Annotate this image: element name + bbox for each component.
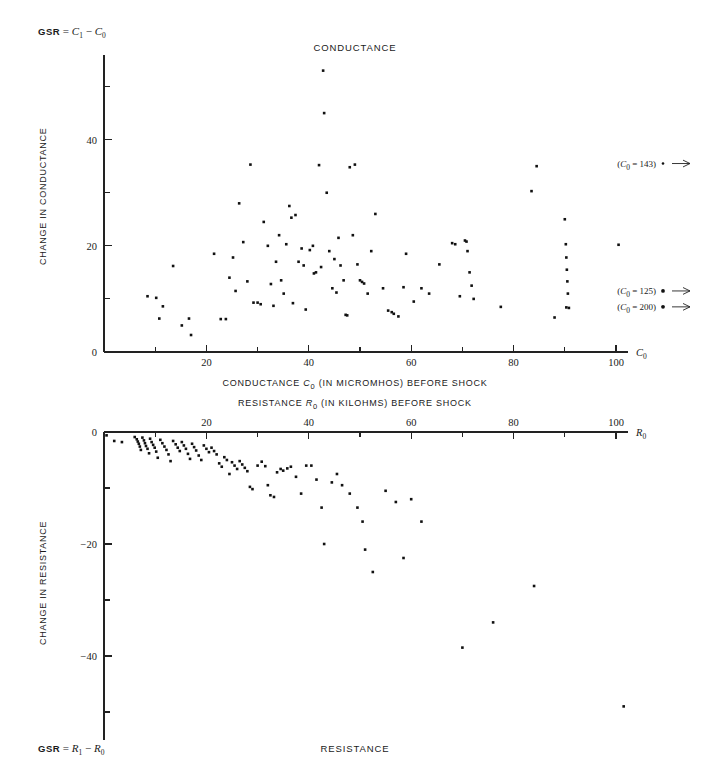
data-point — [144, 442, 147, 445]
data-point — [402, 557, 405, 560]
data-point — [158, 317, 161, 320]
data-point — [213, 450, 216, 453]
data-point — [185, 448, 188, 451]
data-point — [270, 283, 273, 286]
data-point — [472, 298, 475, 301]
data-point — [309, 249, 312, 252]
data-point — [241, 463, 244, 466]
data-point — [278, 234, 281, 237]
data-point — [492, 621, 495, 624]
data-point — [140, 449, 143, 452]
data-point — [356, 506, 359, 509]
data-point — [187, 453, 190, 456]
data-point — [361, 520, 364, 523]
conductance-annotation: (C0 = 125) — [617, 286, 656, 299]
data-point — [203, 444, 206, 447]
data-point — [356, 263, 359, 266]
conductance-x-axis-label: CONDUCTANCE C0 (IN MICROMHOS) BEFORE SHO… — [222, 378, 487, 391]
data-point — [300, 247, 303, 250]
data-point — [461, 646, 464, 649]
data-point — [244, 467, 247, 470]
resistance-x-ticklabel: 20 — [201, 417, 212, 428]
data-point — [172, 265, 175, 268]
data-point — [256, 464, 259, 467]
data-point — [273, 496, 276, 499]
data-point — [622, 705, 625, 708]
data-point — [322, 69, 325, 72]
resistance-panel-title: RESISTANCE — [320, 743, 389, 754]
data-point — [161, 442, 164, 445]
data-point — [290, 216, 293, 219]
data-point — [372, 571, 375, 574]
data-point — [165, 449, 168, 452]
data-point — [172, 440, 175, 443]
data-point — [189, 458, 192, 461]
data-point — [295, 476, 298, 479]
data-point — [105, 434, 108, 437]
resistance-x-axis-label: RESISTANCE R0 (IN KILOHMS) BEFORE SHOCK — [238, 398, 472, 411]
data-point — [325, 191, 328, 194]
data-point — [167, 453, 170, 456]
data-point — [364, 548, 367, 551]
data-point — [410, 498, 413, 501]
data-point — [156, 456, 159, 459]
data-point — [249, 163, 252, 166]
resistance-x-ticklabel: 80 — [508, 417, 519, 428]
data-point — [553, 316, 556, 319]
data-point — [195, 449, 198, 452]
data-point — [292, 302, 295, 305]
data-point — [363, 282, 366, 285]
data-point — [315, 271, 318, 274]
data-point — [617, 243, 620, 246]
figure-canvas: GSR = C1 − C0CONDUCTANCE2040608010002040… — [0, 0, 711, 778]
data-point — [428, 292, 431, 295]
data-point — [143, 439, 146, 442]
data-point — [113, 440, 116, 443]
annotation-marker — [661, 289, 665, 293]
data-point — [190, 334, 193, 337]
data-point — [213, 252, 216, 255]
data-point — [205, 448, 208, 451]
data-point — [454, 243, 457, 246]
data-point — [290, 465, 293, 468]
data-point — [141, 436, 144, 439]
data-point — [148, 452, 151, 455]
data-point — [181, 441, 184, 444]
data-point — [226, 459, 229, 462]
data-point — [155, 297, 158, 300]
data-point — [395, 501, 398, 504]
conductance-y-ticklabel: 40 — [87, 135, 98, 146]
data-point — [370, 250, 373, 253]
data-point — [465, 240, 468, 243]
data-point — [535, 165, 538, 168]
data-point — [323, 112, 326, 115]
conductance-x-axis-symbol: C0 — [636, 347, 647, 361]
data-point — [336, 473, 339, 476]
data-point — [565, 256, 568, 259]
data-point — [530, 190, 533, 193]
data-point — [242, 241, 245, 244]
data-point — [225, 318, 228, 321]
data-point — [197, 454, 200, 457]
data-point — [223, 456, 226, 459]
data-point — [183, 444, 186, 447]
data-point — [163, 445, 166, 448]
data-point — [218, 462, 221, 465]
data-point — [565, 243, 568, 246]
data-point — [267, 245, 270, 248]
data-point — [188, 317, 191, 320]
data-point — [138, 442, 141, 445]
data-point — [200, 459, 203, 462]
data-point — [220, 465, 223, 468]
data-point — [133, 436, 136, 439]
data-point — [297, 260, 300, 263]
data-point — [208, 451, 211, 454]
data-point — [337, 237, 340, 240]
data-point — [155, 450, 158, 453]
data-point — [320, 506, 323, 509]
data-point — [310, 464, 313, 467]
data-point — [342, 279, 345, 282]
data-point — [210, 446, 213, 449]
resistance-y-ticklabel: −40 — [81, 651, 97, 662]
conductance-y-axis-label: CHANGE IN CONDUCTANCE — [38, 127, 48, 265]
